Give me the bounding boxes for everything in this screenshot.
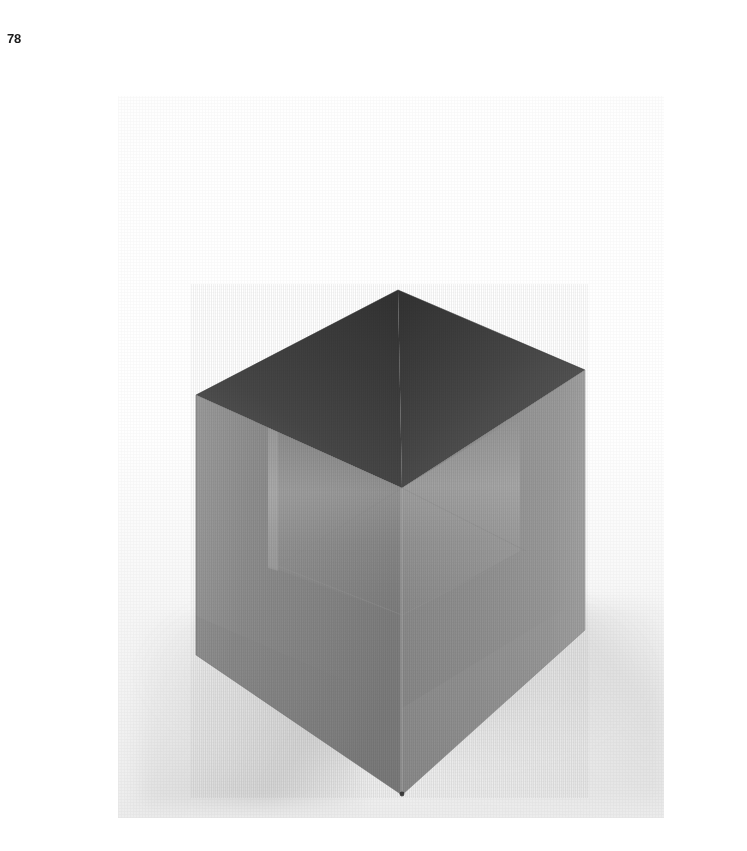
outer-face-left-inner-edge-ghost (268, 426, 278, 571)
front-vertical-edge (400, 488, 403, 795)
page-number: 78 (7, 32, 21, 45)
bottom-vertex-speck (400, 792, 405, 797)
cube-vector-art (118, 96, 664, 818)
photo-plate (118, 96, 664, 818)
cube-sculpture (118, 96, 664, 818)
